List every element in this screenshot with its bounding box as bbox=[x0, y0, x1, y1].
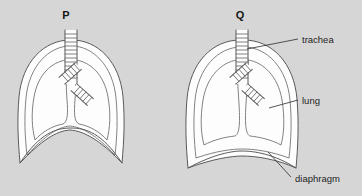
callout-label-diaphragm: diaphragm bbox=[295, 173, 340, 184]
panel-q: Q bbox=[186, 9, 298, 168]
respiratory-system-figure: P bbox=[0, 0, 362, 196]
callout-label-trachea: trachea bbox=[302, 34, 334, 45]
figure-canvas: P bbox=[0, 0, 362, 196]
panel-letter-p: P bbox=[62, 9, 69, 21]
callout-label-lung: lung bbox=[302, 95, 320, 106]
panel-letter-q: Q bbox=[236, 9, 245, 21]
callout-trachea: trachea bbox=[247, 34, 334, 49]
panel-p: P bbox=[18, 9, 124, 163]
